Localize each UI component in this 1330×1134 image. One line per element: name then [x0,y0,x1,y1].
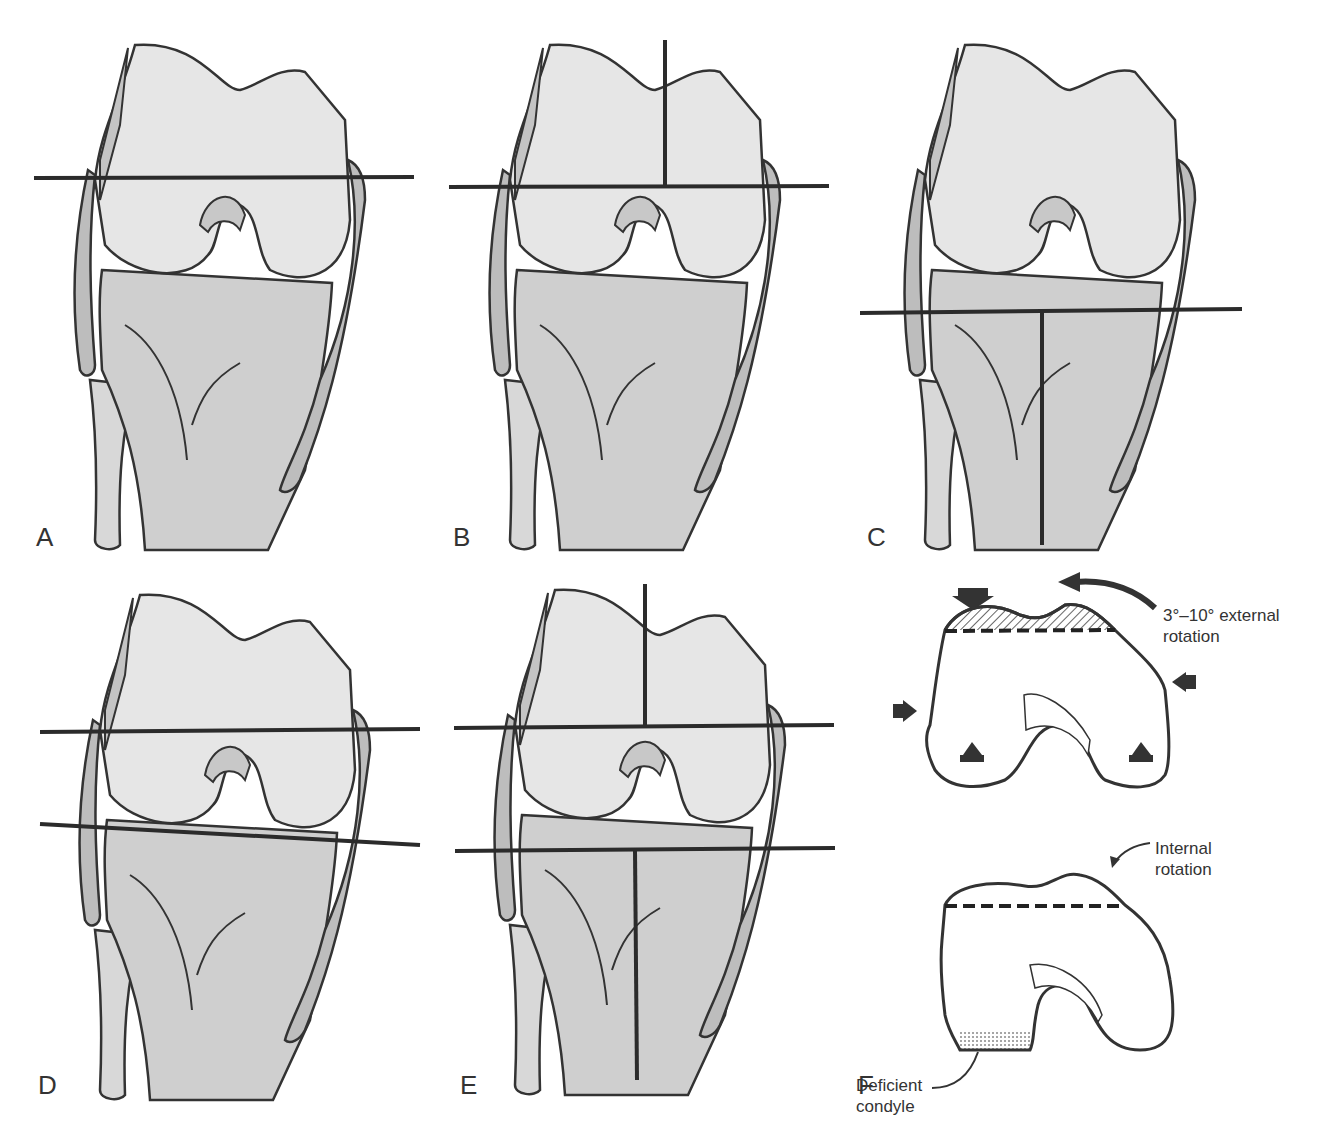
compression-arrow-icon [903,700,917,722]
panel-b: B [415,0,855,560]
knee-diagram-d [5,560,445,1100]
panel-label-c: C [867,522,886,553]
distal-femur-external-rotation [893,572,1196,787]
external-rotation-label: 3°–10° external rotation [1163,605,1280,647]
femoral-cut-line [449,186,829,187]
panel-a: A [0,0,440,560]
tibial-axis-line [635,850,637,1080]
panel-label-a: A [36,522,53,553]
panel-label-e: E [460,1070,477,1101]
femoral-cut-line [34,177,414,178]
panel-c: C [830,0,1270,560]
compression-arrow-icon [1172,672,1186,692]
knee-diagram-b [415,0,855,560]
panel-d: D [5,560,445,1100]
panel-e: E [420,560,860,1100]
deficient-condyle-pointer [932,1052,978,1088]
panel-label-f: F [858,1070,874,1101]
panel-label-d: D [38,1070,57,1101]
panel-f: 3°–10° external rotation Internal rotati… [860,560,1330,1100]
knee-diagram-e [420,560,860,1100]
distal-femur-internal-rotation [932,843,1173,1088]
panel-label-b: B [453,522,470,553]
knee-diagram-c [830,0,1270,560]
internal-rotation-label: Internal rotation [1155,838,1212,880]
knee-diagram-a [0,0,440,560]
external-rotation-arrow-icon [1075,582,1155,608]
internal-rotation-pointer [1115,843,1150,862]
deficient-condyle-region [960,1032,1030,1050]
